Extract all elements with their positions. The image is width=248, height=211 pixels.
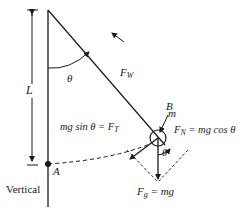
- tangential-force-label: mg sin θ = FT: [60, 122, 119, 134]
- mass-label: m: [168, 108, 176, 119]
- tension-label: FW: [120, 67, 133, 80]
- point-b-arrow: [160, 115, 168, 132]
- tension-arrow: [112, 33, 124, 42]
- swing-path: [48, 144, 150, 164]
- angle-label-bob: θ: [162, 147, 167, 158]
- diagram-graphics: [0, 0, 248, 211]
- vertical-label: Vertical: [6, 184, 40, 195]
- gravity-force-label: Fg = mg: [137, 186, 174, 199]
- angle-label-top: θ: [67, 73, 72, 84]
- point-a-dot: [45, 161, 51, 167]
- tangential-arrow: [130, 138, 158, 159]
- pendulum-diagram: L θ FW B m mg sin θ = FT FN = mg cos θ θ…: [0, 0, 248, 211]
- normal-force-label: FN = mg cos θ: [174, 125, 235, 137]
- point-a-label: A: [53, 166, 60, 177]
- length-label: L: [26, 84, 33, 96]
- angle-arc-top: [48, 52, 89, 68]
